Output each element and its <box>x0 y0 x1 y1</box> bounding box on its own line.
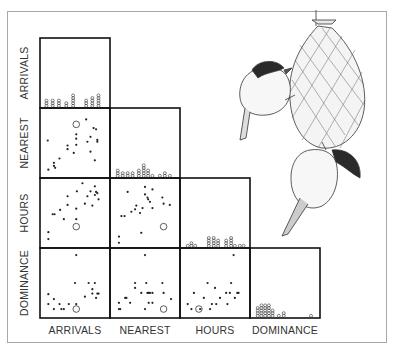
data-point-hours-vs-nearest <box>146 196 148 198</box>
data-point-hours-vs-nearest <box>118 235 120 237</box>
column-label-arrivals: ARRIVALS <box>49 324 102 336</box>
panel-nearest-vs-arrivals <box>40 108 110 178</box>
data-point-dominance-vs-nearest <box>134 287 136 289</box>
data-point-dominance-vs-arrivals <box>53 298 55 300</box>
data-point-dominance-vs-hours <box>211 303 213 305</box>
column-label-dominance: DOMINANCE <box>252 324 318 336</box>
data-point-nearest-vs-arrivals <box>54 167 56 169</box>
data-point-dominance-vs-hours <box>209 308 211 310</box>
outlier-point-hours-vs-nearest <box>160 223 167 230</box>
data-point-nearest-vs-arrivals <box>53 162 55 164</box>
histogram-dot-dominance <box>277 314 280 317</box>
data-point-dominance-vs-hours <box>230 282 232 284</box>
data-point-dominance-vs-nearest <box>140 292 142 294</box>
data-point-dominance-vs-hours <box>206 282 208 284</box>
data-point-hours-vs-nearest <box>149 201 151 203</box>
data-point-dominance-vs-hours <box>234 297 236 299</box>
data-point-nearest-vs-arrivals <box>86 141 88 143</box>
data-point-hours-vs-nearest <box>144 193 146 195</box>
histogram-dot-hours <box>186 244 189 247</box>
data-point-hours-vs-arrivals <box>47 231 49 233</box>
data-point-nearest-vs-arrivals <box>85 118 87 120</box>
data-point-dominance-vs-hours <box>214 287 216 289</box>
row-label-nearest: NEAREST <box>18 117 30 168</box>
data-point-nearest-vs-arrivals <box>73 152 75 154</box>
panel-dominance-vs-dominance <box>250 248 320 318</box>
data-point-hours-vs-arrivals <box>66 204 68 206</box>
data-point-nearest-vs-arrivals <box>47 169 49 171</box>
data-point-hours-vs-nearest <box>135 204 137 206</box>
histogram-dot-hours <box>233 244 236 247</box>
data-point-dominance-vs-arrivals <box>75 303 77 305</box>
data-point-dominance-vs-nearest <box>163 292 165 294</box>
data-point-hours-vs-arrivals <box>94 185 96 187</box>
data-point-nearest-vs-arrivals <box>66 144 68 146</box>
data-point-dominance-vs-arrivals <box>91 288 93 290</box>
outlier-point-dominance-vs-arrivals <box>73 306 80 313</box>
data-point-dominance-vs-nearest <box>129 302 131 304</box>
data-point-hours-vs-nearest <box>141 207 143 209</box>
data-point-dominance-vs-hours <box>237 292 239 294</box>
data-point-nearest-vs-arrivals <box>96 141 98 143</box>
data-point-dominance-vs-hours <box>199 308 201 310</box>
data-point-dominance-vs-hours <box>219 297 221 299</box>
panel-hours-vs-arrivals <box>40 178 110 248</box>
data-point-dominance-vs-hours <box>187 303 189 305</box>
data-point-nearest-vs-arrivals <box>93 127 95 129</box>
data-point-dominance-vs-nearest <box>125 297 127 299</box>
data-point-nearest-vs-arrivals <box>47 139 49 141</box>
panel-hours-vs-nearest <box>110 178 180 248</box>
data-point-nearest-vs-arrivals <box>66 148 68 150</box>
data-point-hours-vs-nearest <box>130 211 132 213</box>
data-point-hours-vs-arrivals <box>89 190 91 192</box>
data-point-hours-vs-arrivals <box>75 208 77 210</box>
data-point-hours-vs-nearest <box>118 242 120 244</box>
data-point-dominance-vs-nearest <box>119 308 121 310</box>
data-point-nearest-vs-arrivals <box>75 133 77 135</box>
data-point-hours-vs-arrivals <box>86 195 88 197</box>
data-point-dominance-vs-hours <box>226 303 228 305</box>
data-point-dominance-vs-nearest <box>134 282 136 284</box>
histogram-dot-dominance <box>310 314 313 317</box>
histogram-dot-nearest <box>168 174 171 177</box>
data-point-nearest-vs-arrivals <box>53 165 55 167</box>
data-point-dominance-vs-arrivals <box>58 303 60 305</box>
panel-dominance-vs-nearest <box>110 248 180 318</box>
panel-arrivals-vs-arrivals <box>40 38 110 108</box>
data-point-hours-vs-nearest <box>169 204 171 206</box>
data-point-hours-vs-arrivals <box>47 238 49 240</box>
data-point-hours-vs-arrivals <box>84 203 86 205</box>
chickadee-bottom-icon <box>282 142 360 236</box>
histogram-dot-hours <box>194 244 197 247</box>
data-point-nearest-vs-arrivals <box>75 138 77 140</box>
data-point-hours-vs-arrivals <box>81 182 83 184</box>
data-point-hours-vs-arrivals <box>76 190 78 192</box>
data-point-dominance-vs-nearest <box>144 254 146 256</box>
data-point-dominance-vs-arrivals <box>53 308 55 310</box>
data-point-dominance-vs-arrivals <box>97 292 99 294</box>
histogram-dot-hours <box>238 244 241 247</box>
data-point-nearest-vs-arrivals <box>94 159 96 161</box>
data-point-hours-vs-nearest <box>139 212 141 214</box>
data-point-hours-vs-nearest <box>161 196 163 198</box>
data-point-hours-vs-arrivals <box>96 192 98 194</box>
data-point-dominance-vs-arrivals <box>95 297 97 299</box>
data-point-hours-vs-nearest <box>144 186 146 188</box>
data-point-dominance-vs-nearest <box>144 308 146 310</box>
column-label-nearest: NEAREST <box>120 324 171 336</box>
data-point-hours-vs-arrivals <box>53 213 55 215</box>
data-point-hours-vs-arrivals <box>59 209 61 211</box>
data-point-dominance-vs-hours <box>225 292 227 294</box>
data-point-hours-vs-arrivals <box>63 218 65 220</box>
data-point-dominance-vs-nearest <box>149 292 151 294</box>
data-point-hours-vs-nearest <box>163 203 165 205</box>
data-point-dominance-vs-arrivals <box>94 282 96 284</box>
chickadee-top-icon <box>240 61 295 140</box>
data-point-hours-vs-arrivals <box>75 218 77 220</box>
data-point-hours-vs-arrivals <box>91 204 93 206</box>
row-label-hours: HOURS <box>18 194 30 233</box>
data-point-dominance-vs-hours <box>203 297 205 299</box>
histogram-dot-nearest <box>151 174 154 177</box>
data-point-dominance-vs-hours <box>215 303 217 305</box>
outlier-point-nearest-vs-arrivals <box>73 121 80 128</box>
